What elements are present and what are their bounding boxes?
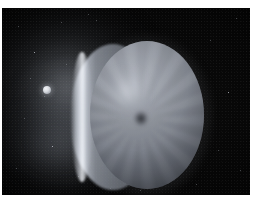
star-15 bbox=[66, 64, 67, 65]
star-16 bbox=[30, 78, 31, 79]
star-1 bbox=[34, 52, 35, 53]
margin-right bbox=[250, 0, 260, 216]
star-7 bbox=[96, 20, 97, 21]
screenshot-root bbox=[0, 0, 260, 216]
star-12 bbox=[140, 190, 141, 191]
star-5 bbox=[16, 168, 17, 169]
photo-plate bbox=[2, 8, 250, 195]
star-14 bbox=[44, 96, 45, 97]
star-9 bbox=[228, 92, 229, 93]
star-3 bbox=[24, 118, 25, 119]
planet-disc bbox=[90, 41, 204, 189]
star-17 bbox=[88, 14, 89, 15]
star-8 bbox=[210, 40, 211, 41]
star-19 bbox=[240, 170, 241, 171]
margin-top bbox=[0, 0, 260, 8]
star-10 bbox=[218, 150, 219, 151]
margin-bottom bbox=[0, 195, 260, 216]
star-0 bbox=[18, 26, 19, 27]
star-18 bbox=[236, 18, 237, 19]
moon bbox=[43, 86, 51, 94]
star-4 bbox=[52, 146, 53, 147]
margin-left bbox=[0, 0, 2, 216]
star-2 bbox=[61, 22, 62, 23]
planet-terminator-shading bbox=[90, 41, 204, 189]
